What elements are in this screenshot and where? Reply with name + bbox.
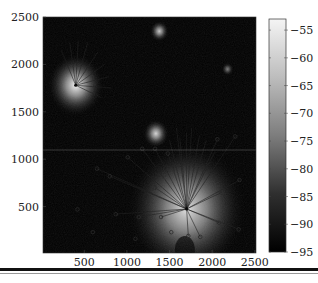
y-tick-label: 2000: [11, 58, 39, 71]
page-rule-thin: [0, 273, 318, 274]
y-tick-label: 500: [18, 201, 39, 214]
heatmap-figure: 5001000150020002500 2500200015001000500 …: [0, 0, 318, 283]
colorbar-tick-label: −65: [290, 80, 313, 93]
colorbar-tick-label: −70: [290, 107, 313, 120]
y-axis: 2500200015001000500: [11, 11, 46, 214]
colorbar: −55−60−65−70−75−80−85−90−95: [269, 19, 313, 259]
page-rule: [0, 268, 318, 271]
colorbar-tick-label: −60: [290, 52, 313, 65]
colorbar-tick-label: −75: [290, 135, 313, 148]
colorbar-tick-label: −85: [290, 191, 313, 204]
y-tick-label: 1000: [11, 153, 39, 166]
plot-area: [43, 17, 256, 275]
colorbar-tick-label: −90: [290, 218, 313, 231]
colorbar-tick-label: −80: [290, 163, 313, 176]
colorbar-tick-label: −55: [290, 24, 313, 37]
y-tick-label: 2500: [11, 11, 39, 24]
y-tick-label: 1500: [11, 106, 39, 119]
colorbar-tick-label: −95: [290, 246, 313, 259]
